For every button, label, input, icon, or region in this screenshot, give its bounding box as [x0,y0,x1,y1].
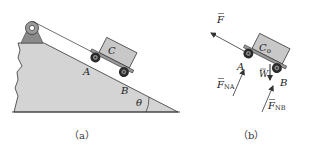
svg-text:F: F [216,14,225,25]
force-f-arrow [211,33,244,51]
wheel-label-a: A [82,66,90,77]
panel-b: F Co A B W FNA FNB [211,14,294,142]
caption-a: （a） [69,130,95,141]
wheel-label-b: B [120,85,128,96]
force-f-label: F [216,14,225,26]
weight-label: W [259,69,269,79]
free-body-diagram: θ C A B （a） [0,0,310,156]
caption-b: （b） [238,130,264,141]
wheel-label-b: B [279,77,287,88]
normal-force-a-label: FNA [216,79,235,92]
panel-a: θ C A B （a） [12,22,180,142]
normal-force-a-arrow [233,70,244,96]
svg-text:FNA: FNA [216,79,235,91]
wheel-label-a: A [236,61,244,72]
angle-label: θ [136,97,142,108]
svg-text:FNB: FNB [267,100,286,112]
svg-text:W: W [259,69,269,79]
normal-force-b-label: FNB [267,100,286,113]
cart-label-c: C [108,45,116,56]
